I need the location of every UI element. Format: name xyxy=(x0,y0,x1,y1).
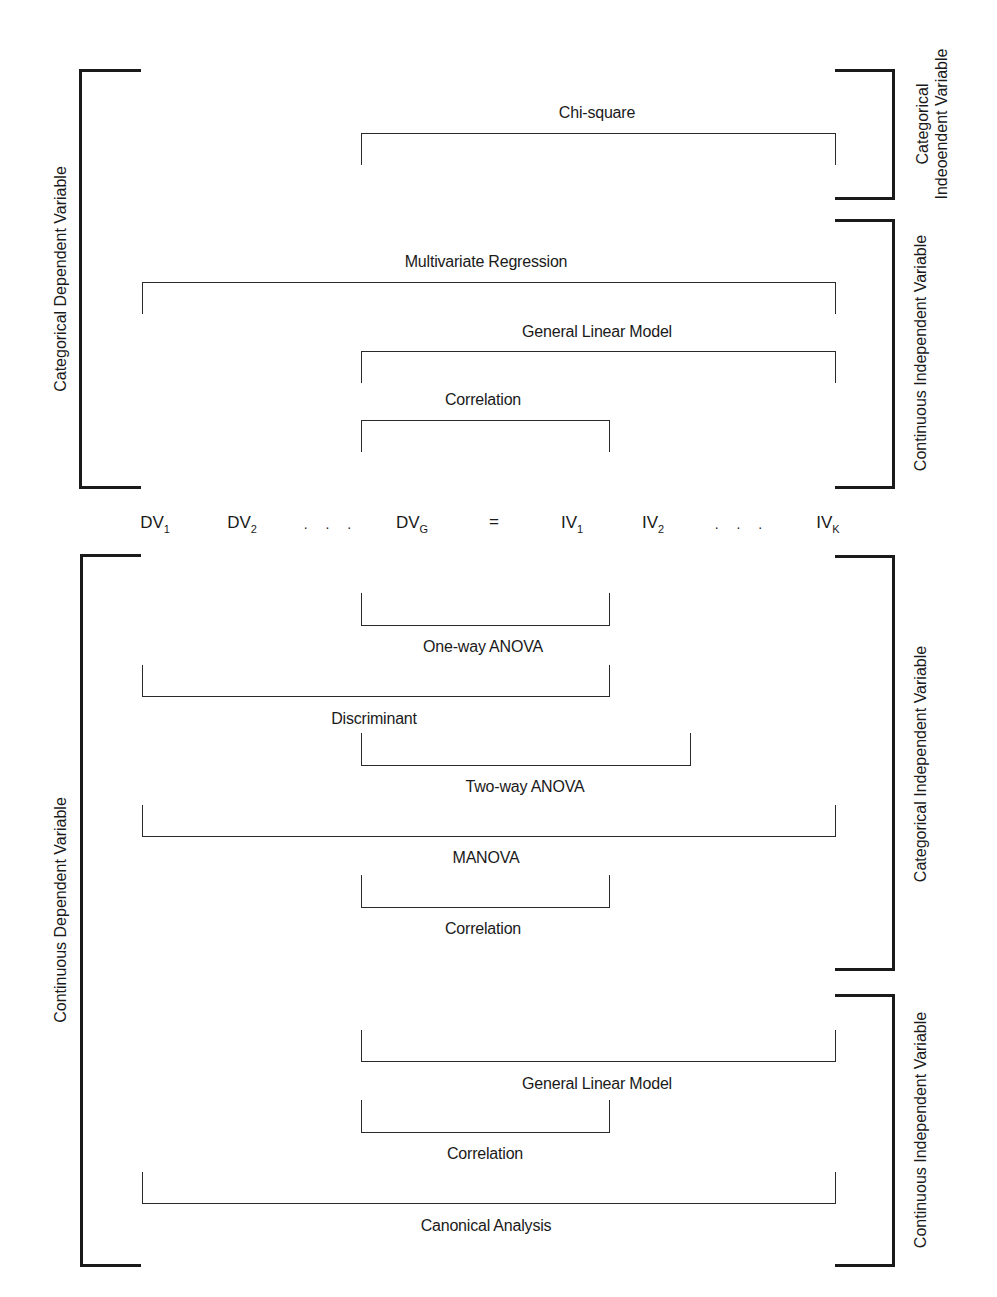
iv-1: IV1 xyxy=(561,513,583,535)
manova-label: MANOVA xyxy=(453,849,520,867)
manova-connector xyxy=(142,805,836,837)
label-line-2: Indeoendent Variable xyxy=(933,49,950,200)
label-line-1: Categorical xyxy=(914,84,931,165)
two-way-anova-label: Two-way ANOVA xyxy=(466,778,585,796)
one-way-anova-label: One-way ANOVA xyxy=(423,638,543,656)
general-linear-model-connector-upper xyxy=(361,351,836,383)
dv-2: DV2 xyxy=(227,513,257,535)
lower-continuous-independent-bracket xyxy=(835,994,895,1267)
one-way-anova-connector xyxy=(361,593,610,626)
correlation-label-lower: Correlation xyxy=(447,1145,523,1163)
canonical-analysis-label: Canonical Analysis xyxy=(421,1217,552,1235)
dv-g: DVG xyxy=(396,513,428,535)
chi-square-label: Chi-square xyxy=(559,104,635,122)
ellipsis-dv: . . . xyxy=(304,516,358,532)
equals-sign: = xyxy=(489,512,499,532)
general-linear-model-label-upper: General Linear Model xyxy=(522,323,672,341)
chi-square-connector xyxy=(361,133,836,165)
correlation-connector-lower xyxy=(361,1100,610,1133)
categorical-dependent-label: Categorical Dependent Variable xyxy=(51,166,70,392)
canonical-analysis-connector xyxy=(142,1172,836,1204)
ellipsis-iv: . . . xyxy=(715,516,769,532)
iv-k: IVK xyxy=(816,513,839,535)
upper-continuous-independent-label: Continuous Independent Variable xyxy=(911,235,930,471)
correlation-label-upper: Correlation xyxy=(445,391,521,409)
general-linear-model-connector-lower xyxy=(361,1030,836,1062)
correlation-connector-upper xyxy=(361,420,610,452)
correlation-label-middle: Correlation xyxy=(445,920,521,938)
correlation-connector-middle xyxy=(361,875,610,908)
upper-categorical-independent-label: Categorical Indeoendent Variable xyxy=(913,49,951,200)
continuous-dependent-bracket xyxy=(80,554,141,1267)
continuous-dependent-label: Continuous Dependent Variable xyxy=(51,797,70,1023)
statistical-methods-diagram: Categorical Dependent Variable Continuou… xyxy=(0,0,997,1297)
lower-continuous-independent-label: Continuous Independent Variable xyxy=(911,1012,930,1248)
discriminant-label: Discriminant xyxy=(331,710,417,728)
discriminant-connector xyxy=(142,665,610,697)
upper-continuous-independent-bracket xyxy=(835,219,895,489)
dv-1: DV1 xyxy=(140,513,170,535)
lower-categorical-independent-bracket xyxy=(835,555,895,971)
general-linear-model-label-lower: General Linear Model xyxy=(522,1075,672,1093)
categorical-dependent-bracket xyxy=(79,69,141,489)
multivariate-regression-connector xyxy=(142,282,836,314)
two-way-anova-connector xyxy=(361,733,691,766)
iv-2: IV2 xyxy=(642,513,664,535)
multivariate-regression-label: Multivariate Regression xyxy=(405,253,568,271)
lower-categorical-independent-label: Categorical Independent Variable xyxy=(911,646,930,882)
upper-categorical-independent-bracket xyxy=(835,69,895,200)
